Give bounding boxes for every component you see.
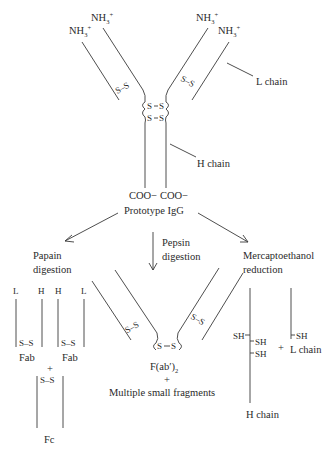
nh3-label-left-heavy: NH3+ [91, 11, 113, 25]
fab2-right-light [202, 273, 243, 340]
mercaptoethanol-plus: + [278, 342, 284, 353]
papain-branch: Papain digestion L H H L S–S Fab S–S Fab… [13, 250, 87, 445]
l-chain-callout-line [227, 63, 253, 76]
fab2-label: Fab [62, 352, 78, 363]
fab2-hinge-s-left: S [157, 341, 162, 351]
arrow-papain [65, 213, 118, 241]
pepsin-branch: Pepsin digestion S–S S–S S S F(ab′)2 + M… [92, 237, 243, 398]
fab2-right-heavy [177, 268, 219, 343]
h-sh-right-1: SH [255, 337, 267, 347]
fab2-right-disulfide: S–S [189, 311, 207, 327]
fab2-hinge-s-right: S [171, 341, 176, 351]
right-heavy-chain-fc [166, 102, 169, 188]
fab2-h-label: H [55, 286, 62, 296]
fab1-h-label: H [38, 286, 45, 296]
fab2-left-heavy [115, 270, 158, 343]
igg-cleavage-diagram: NH3+ NH3+ NH3+ NH3+ S–S S–S S S S S L ch… [0, 0, 331, 453]
fab2-product-label: F(ab′)2 [150, 361, 178, 374]
fab1-disulfide: S–S [19, 338, 34, 348]
prototype-igg-label: Prototype IgG [124, 205, 184, 216]
right-light-chain [192, 42, 229, 100]
mercaptoethanol-branch: Mercaptoethanol reduction SH SH SH H cha… [233, 250, 322, 420]
fab2-l-label: L [81, 286, 87, 296]
fab2-left-disulfide: S–S [123, 319, 141, 335]
fab2-hinge-left [154, 343, 157, 350]
fab1-label: Fab [19, 352, 35, 363]
fc-label: Fc [44, 434, 55, 445]
pepsin-label-1: Pepsin [162, 237, 191, 248]
left-fab-disulfide: S–S [113, 80, 131, 96]
nh3-label-right-heavy: NH3+ [196, 11, 218, 25]
prototype-igg: NH3+ NH3+ NH3+ NH3+ S–S S–S S S S S L ch… [69, 11, 288, 216]
left-heavy-chain-fc [143, 102, 146, 188]
fab1-l-label: L [13, 286, 19, 296]
coo-left: COO− [129, 190, 157, 201]
hinge-s-left-1: S [147, 101, 152, 111]
reduced-h-chain-label: H chain [246, 409, 280, 420]
mercaptoethanol-label-2: reduction [243, 264, 283, 275]
hinge-s-right-1: S [159, 101, 164, 111]
pepsin-plus: + [164, 374, 170, 385]
h-sh-right-2: SH [255, 349, 267, 359]
right-heavy-chain-arm [166, 28, 208, 102]
papain-label-2: digestion [33, 264, 72, 275]
nh3-label-right-light: NH3+ [218, 24, 240, 38]
h-chain-callout-line [170, 144, 196, 157]
small-fragments-label: Multiple small fragments [109, 387, 215, 398]
arrow-mercaptoethanol [198, 213, 248, 242]
left-light-chain [82, 42, 119, 100]
hinge-s-right-2: S [159, 113, 164, 123]
pepsin-label-2: digestion [162, 251, 201, 262]
fc-disulfide: S–S [40, 375, 55, 385]
reduced-l-chain-label: L chain [290, 344, 322, 355]
reaction-arrows [65, 213, 248, 270]
nh3-label-left-light: NH3+ [69, 24, 91, 38]
h-sh-left: SH [233, 331, 245, 341]
l-sh: SH [296, 331, 308, 341]
hinge-s-left-2: S [147, 113, 152, 123]
papain-plus: + [47, 363, 53, 374]
coo-right: COO− [160, 190, 188, 201]
right-fab-disulfide: S–S [179, 73, 197, 89]
fab2-disulfide: S–S [61, 338, 76, 348]
papain-label-1: Papain [33, 250, 62, 261]
h-chain-label: H chain [197, 158, 231, 169]
mercaptoethanol-label-1: Mercaptoethanol [243, 250, 314, 261]
l-chain-label: L chain [256, 76, 288, 87]
fab2-hinge-right [179, 343, 182, 350]
